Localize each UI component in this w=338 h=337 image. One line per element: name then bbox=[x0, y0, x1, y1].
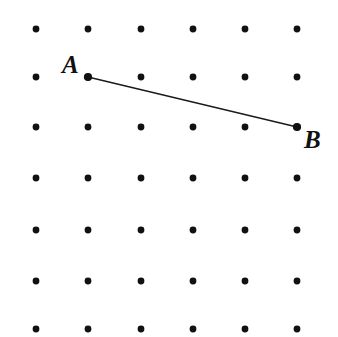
lattice-dot bbox=[138, 26, 145, 33]
lattice-dot bbox=[242, 124, 249, 131]
lattice-dot bbox=[294, 74, 301, 81]
lattice-dot bbox=[242, 26, 249, 33]
lattice-dot bbox=[85, 124, 92, 131]
lattice-dot bbox=[190, 124, 197, 131]
lattice-dot bbox=[294, 326, 301, 333]
lattice-dot bbox=[33, 26, 40, 33]
lattice-dot bbox=[190, 326, 197, 333]
point-label-a: A bbox=[62, 52, 79, 77]
lattice-dot bbox=[242, 326, 249, 333]
lattice-dot bbox=[242, 278, 249, 285]
endpoint-b-dot bbox=[293, 123, 301, 131]
lattice-dot bbox=[85, 175, 92, 182]
lattice-dot bbox=[294, 278, 301, 285]
lattice-dot bbox=[138, 74, 145, 81]
lattice-dot bbox=[190, 74, 197, 81]
lattice-dot bbox=[33, 175, 40, 182]
lattice-dot bbox=[33, 278, 40, 285]
lattice-dot bbox=[190, 26, 197, 33]
lattice-dot bbox=[138, 175, 145, 182]
lattice-dot bbox=[294, 227, 301, 234]
lattice-dot bbox=[138, 227, 145, 234]
lattice-dot bbox=[85, 26, 92, 33]
canvas-background bbox=[0, 0, 338, 337]
lattice-dot bbox=[190, 278, 197, 285]
lattice-dot bbox=[138, 124, 145, 131]
lattice-dot bbox=[294, 175, 301, 182]
lattice-dot bbox=[85, 227, 92, 234]
point-label-b: B bbox=[304, 127, 321, 152]
lattice-dot bbox=[33, 227, 40, 234]
lattice-dot bbox=[242, 227, 249, 234]
lattice-dot bbox=[33, 74, 40, 81]
lattice-dot bbox=[138, 326, 145, 333]
dot-lattice-diagram bbox=[0, 0, 338, 337]
lattice-dot bbox=[242, 175, 249, 182]
lattice-dot bbox=[85, 326, 92, 333]
lattice-dot bbox=[33, 326, 40, 333]
lattice-dot bbox=[85, 278, 92, 285]
lattice-dot bbox=[138, 278, 145, 285]
endpoint-a-dot bbox=[84, 73, 92, 81]
lattice-dot bbox=[190, 227, 197, 234]
lattice-dot bbox=[294, 26, 301, 33]
figure-canvas: A B bbox=[0, 0, 338, 337]
lattice-dot bbox=[33, 124, 40, 131]
lattice-dot bbox=[242, 74, 249, 81]
lattice-dot bbox=[190, 175, 197, 182]
